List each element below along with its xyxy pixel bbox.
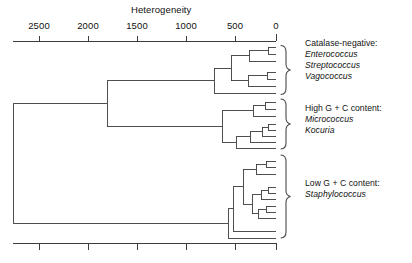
group-heading-catalase-negative: Catalase-negative: bbox=[305, 38, 378, 49]
taxon-staphylococcus: Staphylococcus bbox=[305, 189, 380, 200]
group-label-catalase-negative: Catalase-negative: Enterococcus Streptoc… bbox=[305, 38, 378, 82]
taxon-micrococcus: Micrococcus bbox=[305, 114, 382, 125]
brace-low-gc bbox=[281, 155, 291, 238]
group-heading-high-gc: High G + C content: bbox=[305, 103, 382, 114]
group-heading-low-gc: Low G + C content: bbox=[305, 178, 380, 189]
top-axis bbox=[13, 34, 276, 41]
taxon-enterococcus: Enterococcus bbox=[305, 49, 378, 60]
cluster-catalase-negative-branches bbox=[107, 47, 276, 93]
taxon-streptococcus: Streptococcus bbox=[305, 60, 378, 71]
cluster-high-gc-branches bbox=[13, 81, 276, 148]
dendrogram-figure: Heterogeneity 2500 2000 1500 1000 500 0 bbox=[0, 0, 412, 263]
bottom-axis bbox=[13, 243, 276, 250]
brace-high-gc bbox=[281, 99, 291, 149]
group-label-high-gc: High G + C content: Micrococcus Kocuria bbox=[305, 103, 382, 136]
taxon-kocuria: Kocuria bbox=[305, 125, 382, 136]
cluster-low-gc-branches bbox=[13, 161, 276, 238]
taxon-vagococcus: Vagococcus bbox=[305, 71, 378, 82]
brace-catalase-negative bbox=[281, 46, 291, 95]
group-label-low-gc: Low G + C content: Staphylococcus bbox=[305, 178, 380, 200]
